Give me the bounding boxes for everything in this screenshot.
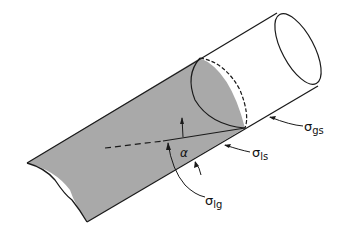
sigma-lg-label: σlg: [205, 193, 222, 210]
sigma-ls-label: σls: [252, 145, 268, 162]
alpha-label: α: [180, 146, 188, 160]
capillary-diagram: α σgs σls σlg: [0, 0, 346, 233]
ls-arrow-head: [224, 144, 231, 148]
sigma-gs-label: σgs: [304, 119, 324, 136]
gs-leader: [270, 117, 303, 126]
tube-end-ellipse: [266, 7, 331, 91]
